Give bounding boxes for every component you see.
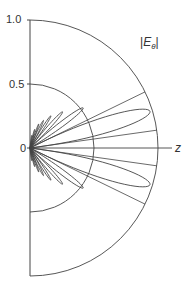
radial-tick-05: 0.5 [9, 79, 24, 90]
polar-plot [0, 0, 192, 290]
radial-tick-0: 0 [20, 143, 26, 154]
polar-grid [27, 20, 172, 276]
legend-label: |Eθ| [140, 36, 159, 51]
z-axis-label: z [175, 142, 181, 154]
radial-tick-1: 1.0 [6, 14, 21, 25]
